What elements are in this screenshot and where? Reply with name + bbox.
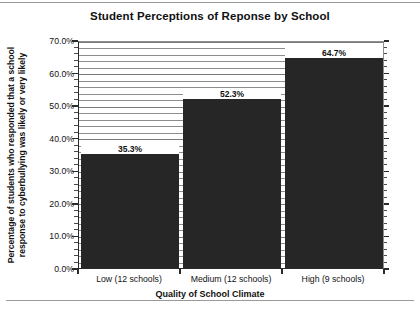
y-axis-tick-mark: [384, 158, 387, 159]
y-axis-tick-mark: [384, 164, 387, 165]
y-axis-tick-mark: [384, 125, 387, 126]
y-axis-tick-mark: [384, 53, 387, 54]
y-axis-tick-mark: [384, 92, 387, 93]
y-axis-tick-mark: [384, 79, 387, 80]
y-axis-tick-mark: [384, 255, 387, 256]
y-axis-tick-mark: [384, 190, 387, 191]
y-axis-tick-mark: [384, 236, 389, 237]
y-axis-tick-mark: [384, 229, 387, 230]
y-axis-tick-label: 70.0%: [49, 36, 74, 46]
x-axis-tick-label: High (9 schools): [282, 274, 384, 284]
bar-value-label: 35.3%: [81, 144, 179, 154]
y-axis-tick-mark: [384, 203, 389, 204]
y-axis-tick-mark: [384, 216, 387, 217]
y-axis-tick-mark: [384, 132, 387, 133]
chart-title: Student Perceptions of Reponse by School: [0, 10, 420, 22]
y-axis-title: Percentage of students who responded tha…: [0, 41, 28, 269]
y-axis-tick-label: 40.0%: [49, 134, 74, 144]
y-axis-tick-mark: [384, 151, 387, 152]
top-border-rule: [0, 2, 420, 3]
y-axis-tick-label: 10.0%: [49, 231, 74, 241]
y-axis-tick-mark: [384, 105, 389, 106]
x-axis-title: Quality of School Climate: [0, 289, 420, 299]
y-axis-tick-label: 60.0%: [49, 69, 74, 79]
y-axis-tick-mark: [384, 210, 387, 211]
y-axis-tick-mark: [384, 184, 387, 185]
x-axis-tick-labels: Low (12 schools)Medium (12 schools)High …: [78, 274, 384, 288]
x-axis-tick-label: Medium (12 schools): [180, 274, 282, 284]
bar: [81, 153, 179, 268]
y-axis-tick-mark: [384, 223, 387, 224]
y-axis-tick-mark: [384, 262, 387, 263]
bar: [183, 98, 281, 268]
y-axis-tick-mark: [384, 60, 387, 61]
y-axis-tick-label: 20.0%: [49, 199, 74, 209]
plot-area: 35.3%52.3%64.7%: [78, 41, 384, 269]
y-axis-tick-mark: [384, 138, 389, 139]
y-axis-tick-label: 30.0%: [49, 166, 74, 176]
y-axis-tick-mark: [384, 177, 387, 178]
bar: [285, 57, 383, 268]
y-axis-tick-mark: [384, 40, 389, 41]
bar-series: 35.3%52.3%64.7%: [79, 42, 383, 268]
y-axis-tick-mark: [384, 197, 387, 198]
y-axis-tick-mark: [384, 86, 387, 87]
y-axis-tick-mark: [384, 171, 389, 172]
y-axis-tick-mark: [384, 112, 387, 113]
y-axis-tick-labels: 0.0%10.0%20.0%30.0%40.0%50.0%60.0%70.0%: [28, 41, 74, 269]
bar-value-label: 52.3%: [183, 89, 281, 99]
y-axis-tick-mark: [384, 99, 387, 100]
y-axis-tick-mark: [384, 268, 389, 269]
x-axis-tick-label: Low (12 schools): [78, 274, 180, 284]
y-axis-tick-marks-right: [384, 41, 385, 269]
y-axis-tick-mark: [384, 118, 387, 119]
y-axis-tick-label: 50.0%: [49, 101, 74, 111]
y-axis-tick-mark: [384, 242, 387, 243]
y-axis-tick-mark: [384, 73, 389, 74]
y-axis-title-line-2: response to cyberbullying was likely or …: [17, 53, 27, 257]
y-axis-tick-mark: [384, 66, 387, 67]
y-axis-tick-mark: [384, 47, 387, 48]
y-axis-tick-mark: [384, 249, 387, 250]
y-axis-title-line-1: Percentage of students who responded tha…: [6, 47, 16, 263]
bar-value-label: 64.7%: [285, 48, 383, 58]
y-axis-tick-mark: [384, 145, 387, 146]
bottom-border-rule: [6, 300, 414, 301]
